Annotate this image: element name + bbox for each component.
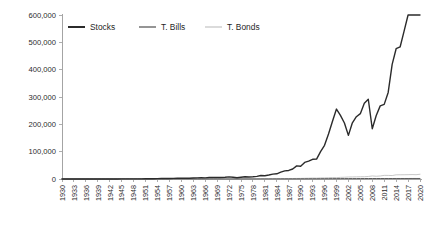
chart-container: 0100,000200,000300,000400,000500,000600,… (0, 0, 437, 225)
y-axis-tick-label: 200,000 (29, 120, 56, 129)
data-series-group (62, 15, 420, 179)
x-axis-tick-label: 1954 (153, 185, 162, 201)
y-axis-tick-label: 300,000 (29, 93, 56, 102)
x-axis-tick-label: 1981 (261, 185, 270, 201)
x-axis-tick-label: 2017 (404, 185, 413, 201)
growth-of-100-line-chart: 0100,000200,000300,000400,000500,000600,… (0, 0, 437, 225)
x-axis-tick-label: 1948 (129, 185, 138, 201)
x-axis-tick-label: 2008 (368, 185, 377, 201)
legend-label-t-bills: T. Bills (161, 22, 185, 32)
x-axis-tick-label: 1945 (117, 185, 126, 201)
x-axis-tick-label: 1972 (225, 185, 234, 201)
x-axis-tick-label: 2020 (416, 185, 425, 201)
x-axis-tick-label: 2002 (344, 185, 353, 201)
x-axis-tick-label: 1969 (213, 185, 222, 201)
x-axis-tick-label: 1942 (106, 185, 115, 201)
legend-label-t-bonds: T. Bonds (227, 22, 260, 32)
x-axis-tick-label: 1930 (58, 185, 67, 201)
x-axis-tick-label: 1939 (94, 185, 103, 201)
y-axis-tick-label: 100,000 (29, 147, 56, 156)
x-axis-tick-label: 1984 (273, 185, 282, 201)
x-axis-tick-label: 1951 (141, 185, 150, 201)
x-axis-tick-label: 1987 (285, 185, 294, 201)
x-axis-tick-label: 1999 (332, 185, 341, 201)
legend-label-stocks: Stocks (90, 22, 115, 32)
x-axis-tick-label: 1936 (82, 185, 91, 201)
y-axis-tick-label: 400,000 (29, 65, 56, 74)
y-axis-tick-label: 500,000 (29, 38, 56, 47)
x-axis-tick-label: 2005 (356, 185, 365, 201)
x-axis-tick-label: 1933 (70, 185, 79, 201)
y-axis-tick-label: 600,000 (29, 11, 56, 20)
x-axis-tick-label: 1957 (165, 185, 174, 201)
y-axis-tick-label-group: 0100,000200,000300,000400,000500,000600,… (29, 11, 56, 184)
x-axis-tick-label: 1975 (237, 185, 246, 201)
x-axis-tick-label-group: 1930193319361939194219451948195119541957… (58, 185, 425, 201)
series-line-stocks (62, 15, 420, 179)
x-axis-tick-label: 1993 (308, 185, 317, 201)
x-axis-tick-label: 1990 (296, 185, 305, 201)
x-axis-tick-label: 1963 (189, 185, 198, 201)
x-axis-tick-label: 1966 (201, 185, 210, 201)
y-axis-tick-label: 0 (52, 175, 56, 184)
x-axis-tick-label: 1978 (249, 185, 258, 201)
x-axis-tick-label: 2014 (392, 185, 401, 201)
x-axis-tick-label: 1960 (177, 185, 186, 201)
chart-legend: StocksT. BillsT. Bonds (68, 22, 260, 32)
x-axis-tick-label: 1996 (320, 185, 329, 201)
x-axis-tick-label: 2011 (380, 185, 389, 200)
